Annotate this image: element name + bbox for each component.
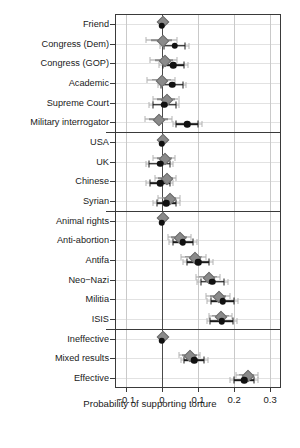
y-axis-label: Friend [83, 19, 109, 29]
y-tick [110, 260, 115, 261]
y-axis-label: Effective [74, 373, 109, 383]
y-tick [110, 280, 115, 281]
y-axis-label: Chinese [75, 176, 109, 186]
x-tick [126, 388, 127, 392]
x-tick [198, 388, 199, 392]
y-axis-label: Military interrogator [30, 117, 109, 127]
x-tick [234, 388, 235, 392]
y-axis-labels: FriendCongress (Dem)Congress (GOP)Academ… [0, 14, 109, 388]
x-axis-title: Probability of supporting torture [0, 398, 300, 409]
y-tick [110, 358, 115, 359]
y-tick [110, 240, 115, 241]
y-axis-label: Militia [86, 294, 109, 304]
x-tick [270, 388, 271, 392]
y-tick [110, 201, 115, 202]
y-tick [110, 103, 115, 104]
y-tick [110, 378, 115, 379]
y-axis-label: ISIS [92, 314, 109, 324]
y-tick [110, 162, 115, 163]
y-axis-label: Anti-abortion [57, 235, 109, 245]
chart-root: FriendCongress (Dem)Congress (GOP)Academ… [0, 0, 300, 448]
y-tick [110, 24, 115, 25]
y-axis-label: Academic [69, 78, 109, 88]
y-axis-label: Antifa [86, 255, 110, 265]
y-tick [110, 122, 115, 123]
y-tick [110, 181, 115, 182]
y-axis-label: Congress (GOP) [41, 58, 109, 68]
y-tick [110, 221, 115, 222]
y-tick [110, 63, 115, 64]
y-axis-label: Ineffective [67, 334, 109, 344]
y-tick [110, 83, 115, 84]
y-axis-label: UK [96, 157, 109, 167]
y-axis-label: Animal rights [56, 216, 109, 226]
x-tick [162, 388, 163, 392]
y-axis-label: Congress (Dem) [42, 39, 109, 49]
y-tick [110, 299, 115, 300]
y-axis-label: Neo−Nazi [68, 275, 109, 285]
y-axis-label: Mixed results [55, 353, 109, 363]
y-tick [110, 339, 115, 340]
plot-frame [115, 14, 281, 388]
y-tick [110, 319, 115, 320]
y-tick [110, 142, 115, 143]
y-axis-label: USA [90, 137, 109, 147]
y-axis-label: Syrian [83, 196, 109, 206]
y-axis-label: Supreme Court [47, 98, 109, 108]
y-tick [110, 44, 115, 45]
plot-area: −0.100.10.20.3 [115, 14, 281, 388]
